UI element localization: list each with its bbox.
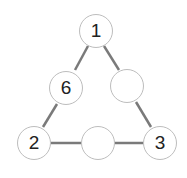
node-right-mid[interactable]: [110, 69, 144, 103]
node-bottom-left: 2: [17, 126, 51, 160]
node-bottom-mid[interactable]: [81, 126, 115, 160]
node-top: 1: [79, 14, 113, 48]
node-left-mid: 6: [49, 71, 83, 105]
node-bottom-right: 3: [143, 126, 177, 160]
